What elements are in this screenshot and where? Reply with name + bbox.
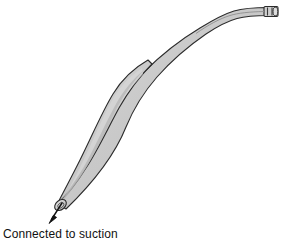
tube-body bbox=[58, 8, 270, 210]
tube-body-group bbox=[58, 8, 270, 210]
end-cap-opening bbox=[273, 7, 278, 16]
suction-caption: Connected to suction bbox=[3, 227, 118, 241]
suction-arrow-head bbox=[49, 215, 57, 223]
suction-tube-illustration bbox=[0, 0, 286, 251]
figure-root: Connected to suction bbox=[0, 0, 286, 251]
